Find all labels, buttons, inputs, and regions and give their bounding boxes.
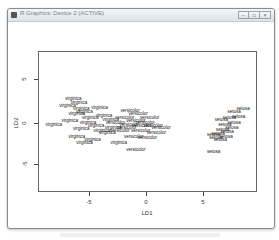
x-tick [146,192,147,196]
close-button[interactable]: × [260,11,271,19]
x-tick-label: 5 [201,199,204,205]
y-tick-label: 0 [21,121,27,124]
maximize-button[interactable]: □ [249,11,260,19]
data-point-setosa: setosa [207,150,220,155]
data-point-versicolor: versicolor [140,116,159,121]
data-point-versicolor: versicolor [151,126,170,131]
window-title: R Graphics: Device 2 (ACTIVE) [20,10,104,16]
data-point-versicolor: versicolor [106,121,125,126]
r-app-icon [11,12,17,18]
data-point-virginica: virginica [73,127,90,132]
y-tick [34,79,38,80]
y-tick-label: 5 [21,77,27,80]
minimize-button[interactable]: – [238,11,249,19]
data-point-virginica: virginica [111,141,128,146]
x-tick-label: -5 [86,199,91,205]
data-point-versicolor: versicolor [126,148,145,153]
x-tick [89,192,90,196]
x-axis-label: LD1 [141,210,152,216]
data-point-virginica: virginica [62,119,79,124]
x-tick [203,192,204,196]
y-tick-label: -5 [22,161,28,166]
plot-canvas: virginicavirginicavirginicavirginicavirg… [8,22,274,228]
y-tick [34,164,38,165]
graphics-device-window: R Graphics: Device 2 (ACTIVE) – □ × virg… [7,8,275,229]
title-bar[interactable]: R Graphics: Device 2 (ACTIVE) – □ × [8,9,274,22]
data-point-virginica: virginica [68,134,85,139]
data-point-virginica: virginica [46,122,63,127]
data-point-virginica: virginica [76,110,93,115]
plot-frame: virginicavirginicavirginicavirginicavirg… [38,51,257,192]
data-point-virginica: virginica [91,105,108,110]
data-point-setosa: setosa [209,136,222,141]
y-tick [34,123,38,124]
faint-caption-bar [60,233,220,237]
caption-buttons: – □ × [238,11,271,19]
y-axis-label: LD2 [13,117,19,128]
data-point-versicolor: versicolor [138,136,157,141]
x-tick-label: 0 [144,199,147,205]
data-point-virginica: virginica [76,141,93,146]
